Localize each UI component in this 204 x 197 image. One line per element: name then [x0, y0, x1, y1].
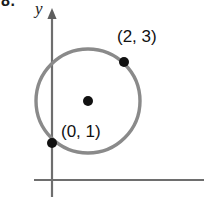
coordinate-plane-graphic	[0, 0, 204, 197]
figure-container: 8. y (2, 3) (0, 1)	[0, 0, 204, 197]
y-axis-label: y	[35, 0, 43, 17]
point-0-1-dot	[47, 138, 57, 148]
y-axis-arrow-icon	[47, 8, 56, 19]
center-point-dot	[83, 96, 93, 106]
problem-number: 8.	[1, 0, 15, 9]
label-point-2-3: (2, 3)	[117, 28, 157, 45]
label-point-0-1: (0, 1)	[61, 123, 101, 140]
point-2-3-dot	[119, 57, 129, 67]
